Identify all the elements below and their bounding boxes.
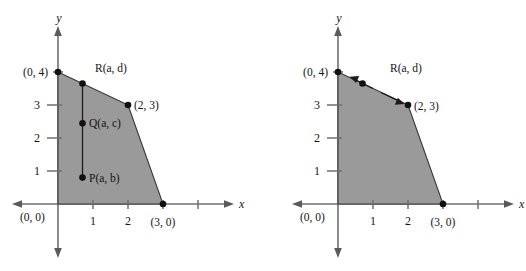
- point-R: [79, 80, 86, 87]
- label-vertex-3-0: (3, 0): [431, 216, 456, 229]
- point-vertex-0-4: [55, 69, 62, 76]
- point-vertex-2-3: [405, 102, 412, 109]
- label-origin: (0, 0): [20, 211, 45, 224]
- y-tick-label-1: 1: [34, 164, 40, 178]
- label-vertex-3-0: (3, 0): [151, 216, 176, 229]
- label-point-P: P(a, b): [89, 172, 120, 185]
- label-vertex-0-4: (0, 4): [23, 66, 48, 79]
- right-panel: y x 1 2 3 2 1 (0, 4) (2, 3) (3, 0) (0, 0…: [263, 0, 526, 271]
- x-tick-label-2: 2: [125, 214, 131, 228]
- y-axis-label: y: [335, 11, 342, 25]
- y-axis-arrow-down-icon: [334, 248, 342, 258]
- label-vertex-0-4: (0, 4): [303, 66, 328, 79]
- x-tick-label-1: 1: [90, 214, 96, 228]
- y-tick-label-2: 2: [314, 131, 320, 145]
- y-tick-label-2: 2: [34, 131, 40, 145]
- y-axis-arrow-up-icon: [54, 26, 62, 36]
- point-R: [359, 80, 366, 87]
- point-Q: [79, 120, 86, 127]
- shaded-region: [338, 72, 443, 204]
- left-panel: y x 1 2 3 2 1 (0, 4) (2, 3) (3, 0) (0, 0…: [0, 0, 263, 271]
- x-axis-arrow-right-icon: [504, 200, 514, 208]
- point-vertex-0-4: [335, 69, 342, 76]
- shaded-region: [58, 72, 163, 204]
- label-point-Q: Q(a, c): [89, 117, 121, 130]
- label-origin: (0, 0): [300, 211, 325, 224]
- label-vertex-2-3: (2, 3): [414, 100, 439, 113]
- x-tick-label-1: 1: [370, 214, 376, 228]
- point-vertex-3-0: [160, 201, 167, 208]
- label-point-R: R(a, d): [390, 62, 422, 75]
- x-axis-label: x: [238, 197, 245, 211]
- x-axis-arrow-right-icon: [224, 200, 234, 208]
- y-axis-arrow-up-icon: [334, 26, 342, 36]
- y-axis-arrow-down-icon: [54, 248, 62, 258]
- figure-root: y x 1 2 3 2 1 (0, 4) (2, 3) (3, 0) (0, 0…: [0, 0, 526, 271]
- label-vertex-2-3: (2, 3): [134, 99, 159, 112]
- point-P: [79, 174, 86, 181]
- point-vertex-2-3: [125, 102, 132, 109]
- label-point-R: R(a, d): [95, 62, 127, 75]
- x-axis-arrow-left-icon: [292, 200, 302, 208]
- x-axis-arrow-left-icon: [12, 200, 22, 208]
- x-tick-label-2: 2: [405, 214, 411, 228]
- y-axis-label: y: [55, 11, 62, 25]
- y-tick-label-3: 3: [34, 98, 40, 112]
- point-vertex-3-0: [440, 201, 447, 208]
- y-tick-label-3: 3: [314, 98, 320, 112]
- x-axis-label: x: [518, 197, 525, 211]
- y-tick-label-1: 1: [314, 164, 320, 178]
